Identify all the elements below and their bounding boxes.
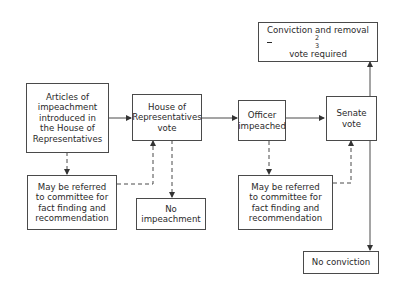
node-text: May be referred (249, 182, 322, 192)
node-text: vote required (289, 49, 347, 59)
node-text: to committee for (249, 192, 322, 202)
fraction-numerator: 2 (267, 35, 367, 41)
node-text: impeached (238, 121, 286, 131)
node-text-fraction-line: 2 3 vote required (267, 35, 369, 59)
node-committee-senate: May be referred to committee for fact fi… (238, 175, 333, 230)
node-text: Representatives (132, 112, 201, 122)
node-text: recommendation (35, 213, 108, 223)
arrow-committee-to-senate-vote (333, 141, 351, 183)
node-text: fact finding and (35, 203, 108, 213)
node-text: Officer (238, 110, 286, 120)
node-text: fact finding and (249, 203, 322, 213)
node-senate-vote: Senate vote (326, 96, 377, 141)
impeachment-flowchart: Articles of impeachment introduced in th… (0, 0, 400, 288)
node-text: Articles of (33, 92, 102, 102)
arrow-committee-to-house-vote (117, 141, 153, 184)
node-no-impeachment: No impeachment (136, 198, 206, 230)
node-text: May be referred (35, 182, 108, 192)
node-text: recommendation (249, 213, 322, 223)
two-thirds-fraction: 2 3 (267, 35, 367, 49)
node-text: No conviction (312, 257, 371, 267)
node-text: vote (132, 123, 201, 133)
node-text: introduced in (33, 113, 102, 123)
node-text: Senate (336, 108, 366, 118)
node-text: impeachment (141, 214, 200, 224)
node-articles-introduced: Articles of impeachment introduced in th… (26, 83, 109, 153)
node-text: vote (336, 119, 366, 129)
node-text: impeachment (33, 102, 102, 112)
node-text: to committee for (35, 192, 108, 202)
node-conviction-and-removal: Conviction and removal 2 3 vote required (258, 22, 378, 62)
node-house-vote: House of Representatives vote (132, 94, 202, 141)
node-text: No (141, 204, 200, 214)
node-text: the House of (33, 123, 102, 133)
node-officer-impeached: Officer impeached (238, 100, 286, 141)
node-no-conviction: No conviction (303, 251, 379, 274)
node-text: House of (132, 102, 201, 112)
node-text: Representatives (33, 134, 102, 144)
node-committee-house: May be referred to committee for fact fi… (27, 175, 117, 230)
